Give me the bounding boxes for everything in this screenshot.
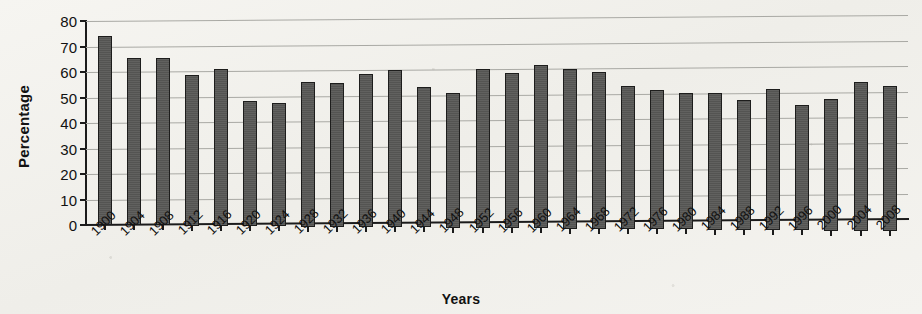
bar-slot — [235, 21, 264, 225]
x-label-slot: 1980 — [672, 228, 701, 290]
bar-1908 — [156, 58, 170, 225]
x-label-slot: 1952 — [468, 228, 497, 290]
x-label-slot: 1968 — [584, 228, 613, 290]
bar-1928 — [301, 82, 315, 226]
bar-1940 — [388, 70, 402, 227]
bar-slot — [294, 21, 323, 225]
bar-1956 — [505, 73, 519, 229]
bar-1932 — [330, 83, 344, 227]
y-tick-label-70: 70 — [60, 38, 77, 55]
bar-slot — [846, 21, 875, 225]
bar-slot — [497, 21, 526, 225]
x-label-slot: 1904 — [119, 228, 148, 290]
bar-1952 — [476, 69, 490, 228]
y-tick-label-20: 20 — [60, 166, 77, 183]
y-tick-label-10: 10 — [60, 191, 77, 208]
x-label-slot: 1960 — [526, 228, 555, 290]
x-label-slot: 1972 — [613, 228, 642, 290]
bar-slot — [788, 21, 817, 225]
bar-slot — [613, 21, 642, 225]
x-label-slot: 1964 — [555, 228, 584, 290]
y-tick-label-0: 0 — [69, 217, 77, 234]
y-tick-label-50: 50 — [60, 89, 77, 106]
x-label-slot: 2000 — [817, 228, 846, 290]
bar-slot — [701, 21, 730, 225]
bar-slot — [177, 21, 206, 225]
bar-slot — [875, 21, 904, 225]
x-label-slot: 1976 — [642, 228, 671, 290]
x-label-slot: 1908 — [148, 228, 177, 290]
bar-1936 — [359, 74, 373, 227]
x-label-slot: 1984 — [701, 228, 730, 290]
bar-slot — [352, 21, 381, 225]
x-label-slot: 1932 — [323, 228, 352, 290]
bar-slot — [759, 21, 788, 225]
x-axis-title: Years — [0, 291, 922, 307]
x-label-slot: 1900 — [90, 228, 119, 290]
bar-slot — [584, 21, 613, 225]
bar-slot — [90, 21, 119, 225]
bar-slot — [148, 21, 177, 225]
bar-slot — [526, 21, 555, 225]
bar-slot — [323, 21, 352, 225]
x-label-slot: 1940 — [381, 228, 410, 290]
bar-1900 — [98, 36, 112, 225]
bar-1904 — [127, 58, 141, 225]
x-label-slot: 1996 — [788, 228, 817, 290]
x-label-slot: 2004 — [846, 228, 875, 290]
x-label-slot: 1948 — [439, 228, 468, 290]
y-tick-label-80: 80 — [60, 13, 77, 30]
x-label-slot: 1988 — [730, 228, 759, 290]
bar-1960 — [534, 65, 548, 228]
x-label-slot: 1920 — [235, 228, 264, 290]
bar-slot — [206, 21, 235, 225]
plot-area: 01020304050607080 — [86, 21, 908, 225]
x-label-slot: 1928 — [294, 228, 323, 290]
x-label-slot: 1924 — [264, 228, 293, 290]
y-tick-label-60: 60 — [60, 64, 77, 81]
x-label-slot: 1944 — [410, 228, 439, 290]
y-axis-title: Percentage — [15, 52, 32, 202]
x-label-slot: 1912 — [177, 228, 206, 290]
x-label-slot: 1916 — [206, 228, 235, 290]
bar-slot — [119, 21, 148, 225]
x-label-slot: 1956 — [497, 228, 526, 290]
bar-slot — [730, 21, 759, 225]
bar-slot — [672, 21, 701, 225]
bar-slot — [642, 21, 671, 225]
bar-slot — [264, 21, 293, 225]
bar-series — [86, 21, 908, 225]
bar-slot — [381, 21, 410, 225]
y-tick-label-30: 30 — [60, 140, 77, 157]
bar-1916 — [214, 69, 228, 226]
bar-slot — [410, 21, 439, 225]
y-tick-label-40: 40 — [60, 115, 77, 132]
x-label-slot: 2008 — [875, 228, 904, 290]
bar-slot — [817, 21, 846, 225]
bar-slot — [468, 21, 497, 225]
bar-slot — [439, 21, 468, 225]
bar-1912 — [185, 75, 199, 225]
x-axis-tick-labels: 1900190419081912191619201924192819321936… — [86, 228, 908, 290]
x-label-slot: 1992 — [759, 228, 788, 290]
x-label-slot: 1936 — [352, 228, 381, 290]
bar-slot — [555, 21, 584, 225]
bar-chart: Percentage 01020304050607080 19001904190… — [0, 0, 922, 314]
